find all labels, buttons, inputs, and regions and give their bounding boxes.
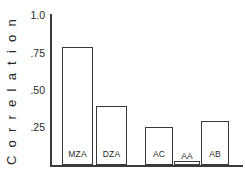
- x-axis-line: [50, 165, 243, 167]
- bar-label-mza: MZA: [63, 149, 92, 159]
- bar-aa: AA: [174, 161, 200, 166]
- bar-label-ac: AC: [146, 149, 172, 159]
- bar-dza: DZA: [96, 106, 127, 165]
- plot-area: MZA DZA AC AA AB: [50, 14, 243, 165]
- y-axis-tick-labels: 1.0 .75 .50 .25: [17, 0, 45, 182]
- y-tick-label-4: .25: [19, 122, 45, 132]
- bar-label-dza: DZA: [97, 149, 126, 159]
- bar-ab: AB: [201, 121, 229, 165]
- bar-chart-figure: C o r r e l a t i o n 1.0 .75 .50 .25 MZ…: [0, 0, 245, 182]
- bar-label-aa: AA: [175, 151, 199, 161]
- y-tick-label-2: .75: [19, 48, 45, 58]
- bar-ac: AC: [145, 127, 173, 165]
- bar-mza: MZA: [62, 47, 93, 165]
- y-tick-label-3: .50: [19, 85, 45, 95]
- y-tick-label-1: 1.0: [19, 10, 45, 20]
- bar-label-ab: AB: [202, 149, 228, 159]
